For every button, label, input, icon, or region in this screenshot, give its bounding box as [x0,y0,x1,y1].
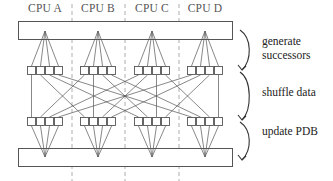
cpu-b-label: CPU B [81,2,115,14]
successor-buffer [162,67,170,75]
successor-buffer [46,67,54,75]
phase-generate-line1: generate [262,34,311,48]
receive-buffer [188,118,196,126]
phase-arrow-shuffle [240,72,249,120]
phase-shuffle-line1: shuffle data [262,85,316,99]
phase-update-line1: update PDB [262,124,318,138]
successor-buffer [99,67,107,75]
receive-buffer [197,118,205,126]
receive-buffer [81,118,89,126]
cpu-d-label: CPU D [188,2,223,14]
receive-buffer [162,118,170,126]
successor-buffer [206,67,214,75]
state-array-top [19,22,233,40]
receive-buffer [28,118,36,126]
phase-update-pdb: update PDB [262,124,318,138]
receive-buffer [46,118,54,126]
successor-buffer [144,67,152,75]
parallel-pdb-diagram: CPU A CPU B CPU C CPU D generate success… [0,0,333,181]
successor-buffer [28,67,36,75]
receive-buffer [135,118,143,126]
phase-arrow-generate [240,30,249,70]
successor-buffer [90,67,98,75]
successor-buffer [215,67,223,75]
successor-buffer [135,67,143,75]
receive-buffer [99,118,107,126]
phase-generate-line2: successors [262,48,311,62]
receive-buffer [206,118,214,126]
receive-buffer [90,118,98,126]
successor-buffer [188,67,196,75]
receive-buffer [55,118,63,126]
successor-buffer [81,67,89,75]
successor-buffer [37,67,45,75]
receive-buffer [37,118,45,126]
successor-buffer [153,67,161,75]
pdb-array-bottom [19,149,233,167]
receive-buffer [215,118,223,126]
receive-buffer [144,118,152,126]
cpu-a-label: CPU A [28,2,62,14]
cpu-c-label: CPU C [135,2,169,14]
phase-arrow-update [240,122,249,160]
receive-buffer [153,118,161,126]
successor-buffer [197,67,205,75]
phase-shuffle-data: shuffle data [262,85,316,99]
successor-buffer [108,67,116,75]
successor-buffer [55,67,63,75]
phase-generate-successors: generate successors [262,34,311,62]
receive-buffer [108,118,116,126]
